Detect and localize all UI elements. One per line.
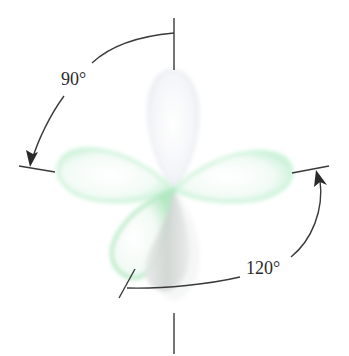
angle-label-90: 90° (61, 70, 86, 88)
lobe-top (148, 70, 198, 190)
tick-right (292, 166, 329, 173)
lobe-bottom-front (112, 190, 190, 291)
lobe-right (174, 151, 292, 201)
arrowhead-90-icon (26, 150, 38, 167)
tick-left (19, 166, 55, 172)
angle-label-120: 120° (246, 259, 280, 277)
orbital-diagram: 90° 120° (0, 0, 349, 356)
orbital-diagram-svg (0, 0, 349, 356)
